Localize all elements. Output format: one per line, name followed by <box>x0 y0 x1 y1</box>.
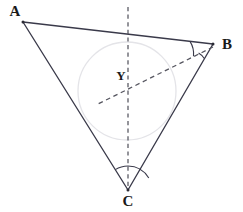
vertex-dot-a <box>22 21 25 24</box>
angle-arc-b-upper <box>190 42 193 57</box>
triangle-side-bc <box>128 44 213 190</box>
triangle-side-ca <box>23 22 128 190</box>
incircle <box>78 42 176 140</box>
angle-arc-b-lower <box>199 53 205 59</box>
geometry-canvas: A B C Y <box>0 0 243 212</box>
incenter-label-y: Y <box>116 68 126 83</box>
vertex-label-a: A <box>10 3 21 19</box>
vertex-label-c: C <box>123 193 134 209</box>
vertex-label-b: B <box>222 36 232 52</box>
angle-arc-c-left <box>115 166 128 170</box>
vertex-dot-c <box>127 189 130 192</box>
angle-bisector-from-b <box>96 47 213 105</box>
triangle-side-ab <box>23 22 213 44</box>
geometry-diagram: A B C Y <box>0 0 243 212</box>
vertex-dot-b <box>212 43 215 46</box>
